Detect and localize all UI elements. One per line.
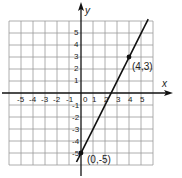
origin-label: 0 [83,95,88,104]
x-tick: -2 [53,95,61,104]
x-tick: 5 [140,95,145,104]
point-label-4-3: (4,3) [132,61,153,72]
y-tick: 2 [74,64,79,73]
y-tick: -1 [72,101,80,110]
x-axis-label: x [161,78,168,89]
y-tick: -4 [72,137,80,146]
plotted-line-extension [77,158,79,162]
y-tick: 4 [74,40,79,49]
y-tick: 3 [74,52,79,61]
axes [2,7,168,176]
point-4-3 [127,55,132,60]
plotted-line [79,19,149,158]
point-label-0-neg5: (0,-5) [87,154,111,165]
x-tick: 1 [92,95,97,104]
y-tick: -3 [72,125,80,134]
y-tick: -2 [72,113,80,122]
x-tick: 3 [116,95,121,104]
point-0-neg5 [79,151,84,156]
coordinate-plane: x y -5 -4 -3 -2 -1 1 2 3 4 5 0 5 4 3 2 1… [0,0,182,178]
y-axis-label: y [84,5,91,16]
x-tick: 4 [128,95,133,104]
y-tick: 1 [74,76,79,85]
x-tick: -4 [29,95,37,104]
x-tick: -5 [17,95,25,104]
x-tick: -3 [41,95,49,104]
y-tick: 5 [74,28,79,37]
